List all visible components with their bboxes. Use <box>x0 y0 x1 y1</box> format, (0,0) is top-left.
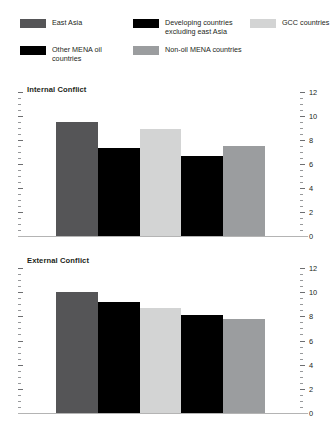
axis-tick <box>300 383 303 384</box>
axis-tick <box>300 170 303 171</box>
axis-tick <box>18 395 21 396</box>
axis-tick <box>18 182 21 183</box>
axis-tick <box>300 122 303 123</box>
bar-internal-other-mena-oil <box>181 156 223 236</box>
axis-tick <box>300 389 305 390</box>
bar-internal-gcc-countries <box>140 129 182 236</box>
axis-tick-label: 4 <box>309 360 313 369</box>
axis-tick <box>300 304 303 305</box>
axis-tick <box>300 176 303 177</box>
axis-tick <box>18 268 23 269</box>
axis-tick <box>18 377 21 378</box>
axis-tick-label: 2 <box>309 384 313 393</box>
axis-tick <box>18 304 21 305</box>
axis-tick <box>300 212 305 213</box>
legend-swatch-developing-countries <box>133 19 159 28</box>
axis-tick <box>18 292 23 293</box>
axis-tick-label: 6 <box>309 160 313 169</box>
bar-external-east-asia <box>56 292 98 413</box>
axis-tick <box>18 98 21 99</box>
legend-item-developing-countries: Developing countries excluding east Asia <box>133 18 248 36</box>
axis-tick <box>18 322 21 323</box>
axis-tick <box>300 395 303 396</box>
legend-swatch-other-mena-oil <box>20 46 46 55</box>
axis-tick <box>300 274 303 275</box>
legend-item-gcc-countries: GCC countries <box>250 18 333 28</box>
axis-tick <box>300 347 303 348</box>
axis-tick <box>18 122 21 123</box>
axis-tick <box>300 334 303 335</box>
axis-tick <box>18 224 21 225</box>
axis-tick-label: 12 <box>309 88 317 97</box>
axis-tick-label: 4 <box>309 184 313 193</box>
axis-tick <box>300 298 303 299</box>
bar-external-developing-countries <box>98 302 140 413</box>
baseline-internal-conflict <box>18 236 308 237</box>
axis-tick <box>300 322 303 323</box>
axis-tick <box>300 310 303 311</box>
axis-tick <box>18 328 21 329</box>
legend-item-non-oil-mena: Non-oil MENA countries <box>133 45 248 55</box>
axis-tick-label: 10 <box>309 288 317 297</box>
axis-tick-label: 10 <box>309 112 317 121</box>
bar-group-external-conflict <box>56 268 265 413</box>
axis-tick <box>300 401 303 402</box>
legend-item-other-mena-oil: Other MENA oil countries <box>20 45 130 63</box>
axis-tick <box>18 218 21 219</box>
axis-tick <box>300 407 303 408</box>
axis-tick <box>300 140 305 141</box>
axis-tick <box>300 359 303 360</box>
axis-tick <box>18 128 21 129</box>
axis-tick <box>18 274 21 275</box>
legend-label-gcc-countries: GCC countries <box>282 18 329 27</box>
plot-area-external-conflict <box>56 268 265 413</box>
axis-tick <box>18 170 21 171</box>
axis-tick <box>18 407 21 408</box>
bar-external-non-oil-mena <box>223 319 265 413</box>
axis-tick <box>300 286 303 287</box>
axis-tick-label: 0 <box>309 232 313 241</box>
axis-tick <box>300 164 305 165</box>
axis-tick <box>300 104 303 105</box>
axis-tick <box>300 268 305 269</box>
bar-internal-non-oil-mena <box>223 146 265 236</box>
plot-area-internal-conflict <box>56 92 265 236</box>
axis-tick <box>300 128 303 129</box>
axis-tick <box>18 298 21 299</box>
axis-tick <box>18 212 23 213</box>
legend-item-east-asia: East Asia <box>20 18 130 28</box>
axis-tick <box>18 140 23 141</box>
axis-tick <box>18 286 21 287</box>
axis-tick <box>18 152 21 153</box>
axis-tick <box>300 194 303 195</box>
axis-tick <box>300 328 303 329</box>
axis-tick <box>18 134 21 135</box>
axis-tick <box>300 188 305 189</box>
legend-label-non-oil-mena: Non-oil MENA countries <box>165 45 242 54</box>
legend-label-developing-countries: Developing countries excluding east Asia <box>165 18 248 36</box>
axis-tick <box>18 383 21 384</box>
axis-tick <box>18 188 23 189</box>
bar-external-other-mena-oil <box>181 315 223 413</box>
axis-tick <box>18 371 21 372</box>
axis-tick <box>300 377 303 378</box>
axis-tick <box>18 359 21 360</box>
axis-tick <box>300 92 305 93</box>
axis-tick <box>18 401 21 402</box>
axis-tick <box>18 347 21 348</box>
axis-tick <box>300 365 305 366</box>
axis-tick <box>18 194 21 195</box>
axis-tick <box>18 280 21 281</box>
axis-tick-label: 8 <box>309 312 313 321</box>
axis-tick <box>300 218 303 219</box>
axis-tick <box>18 334 21 335</box>
axis-tick <box>18 316 23 317</box>
axis-tick <box>300 182 303 183</box>
axis-tick <box>300 134 303 135</box>
chart-legend: East Asia Developing countries excluding… <box>0 0 333 82</box>
axis-tick <box>300 200 303 201</box>
axis-tick <box>18 104 21 105</box>
axis-tick <box>300 146 303 147</box>
axis-tick <box>300 316 305 317</box>
axis-tick <box>18 158 21 159</box>
